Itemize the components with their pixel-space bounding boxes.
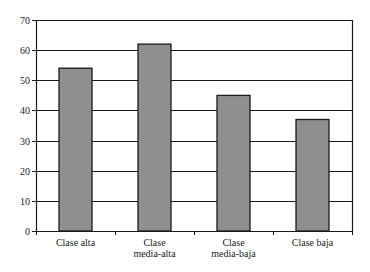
y-tick-label: 70 — [20, 15, 30, 26]
y-tick-label: 50 — [20, 75, 30, 86]
y-axis-ticks: 010203040506070 — [20, 15, 36, 237]
bar-clase-media-alta — [138, 44, 171, 231]
x-category-label: media-baja — [211, 248, 256, 259]
y-tick-label: 0 — [25, 226, 30, 237]
bar-clase-alta — [59, 68, 92, 231]
x-category-label: Clase baja — [292, 237, 334, 248]
y-tick-label: 60 — [20, 45, 30, 56]
bars — [59, 44, 329, 231]
y-tick-label: 20 — [20, 166, 30, 177]
bar-clase-media-baja — [217, 95, 250, 231]
x-axis-labels: Clase altaClasemedia-altaClasemedia-baja… — [56, 237, 334, 259]
y-tick-label: 40 — [20, 105, 30, 116]
x-category-label: Clase — [222, 237, 245, 248]
y-tick-label: 10 — [20, 196, 30, 207]
bar-chart: 010203040506070 Clase altaClasemedia-alt… — [0, 0, 370, 272]
x-category-label: Clase — [143, 237, 166, 248]
x-category-label: media-alta — [133, 248, 176, 259]
x-category-label: Clase alta — [56, 237, 96, 248]
bar-clase-baja — [296, 120, 329, 232]
y-tick-label: 30 — [20, 136, 30, 147]
